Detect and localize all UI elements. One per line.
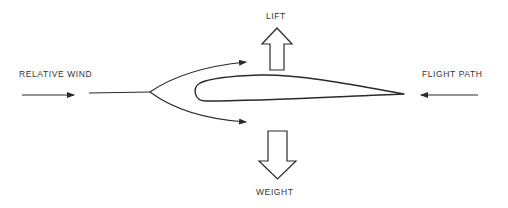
weight-label: WEIGHT xyxy=(256,187,294,197)
lift-label: LIFT xyxy=(266,11,286,21)
lift-arrow-icon xyxy=(262,28,292,70)
flight-path-label: FLIGHT PATH xyxy=(422,69,482,79)
airfoil-shape xyxy=(195,75,404,101)
airflow-split-lines xyxy=(89,62,246,122)
airfoil-forces-diagram xyxy=(0,0,508,208)
relative-wind-label: RELATIVE WIND xyxy=(19,69,92,79)
weight-arrow-icon xyxy=(259,131,296,179)
